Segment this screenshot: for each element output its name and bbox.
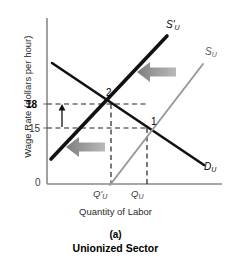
y-axis-title: Wage Rate (dollars per hour) [23, 17, 33, 177]
origin-label: 0 [35, 178, 41, 188]
supply-shift-arrow-upper [137, 62, 176, 82]
x-tick-label-q-prime: Q'U [93, 189, 107, 200]
figure-caption: (a) Unionized Sector [0, 228, 231, 255]
x-tick-q-prime-sub: U [102, 193, 107, 200]
wage-increase-arrow [59, 104, 66, 127]
y-tick-label-18: 18 [26, 100, 37, 110]
y-tick-label-15: 15 [29, 124, 40, 134]
supply-shift-arrow-lower [66, 137, 105, 157]
curve-label-supply-shifted-sub: U [175, 24, 180, 31]
curve-label-supply-original-base: S [205, 46, 212, 57]
figure-container: Wage Rate (dollars per hour) 18 15 0 Q'U… [0, 0, 231, 258]
x-tick-label-q: QU [131, 189, 143, 200]
x-tick-q-prime-base: Q' [93, 188, 102, 199]
x-axis-title: Quantity of Labor [0, 207, 231, 217]
curve-label-demand-sub: U [211, 166, 216, 173]
equilibrium-point-label-2: 2 [106, 88, 112, 98]
figure-caption-title: Unionized Sector [0, 241, 231, 255]
curve-label-demand: DU [204, 162, 216, 173]
curve-label-supply-shifted-base: S' [166, 19, 175, 30]
x-tick-q-sub: U [138, 193, 143, 200]
curve-label-supply-original: SU [205, 47, 217, 58]
curve-label-supply-original-sub: U [212, 51, 217, 58]
equilibrium-point-label-1: 1 [151, 117, 157, 127]
figure-caption-part: (a) [0, 228, 231, 241]
curve-label-supply-shifted: S'U [166, 20, 180, 31]
